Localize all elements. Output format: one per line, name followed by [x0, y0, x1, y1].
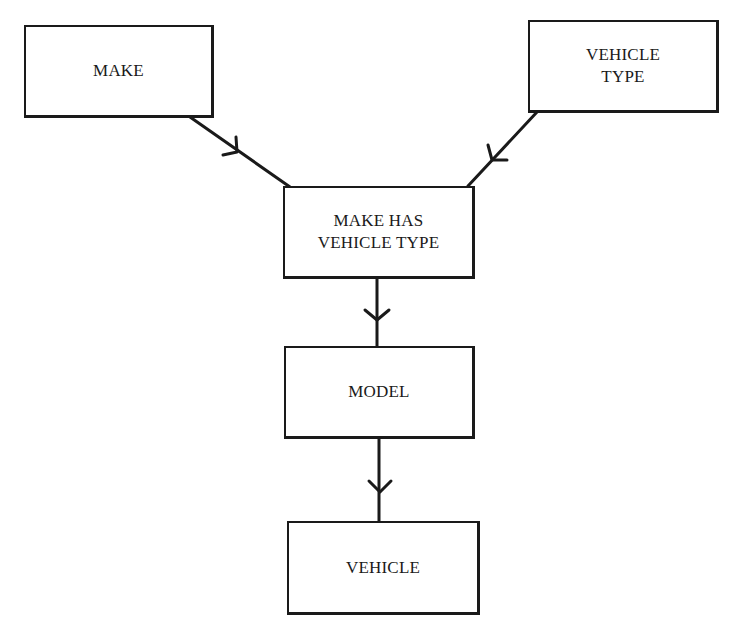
- entity-label-line-1: VEHICLE: [586, 44, 660, 66]
- entity-vehicle: VEHICLE: [287, 521, 480, 615]
- entity-make-has-vehicle-type: MAKE HAS VEHICLE TYPE: [283, 186, 475, 279]
- entity-label: MAKE: [93, 60, 144, 82]
- entity-make: MAKE: [24, 25, 214, 118]
- entity-vehicle-type: VEHICLE TYPE: [528, 20, 719, 113]
- entity-label-line-2: VEHICLE TYPE: [318, 232, 440, 254]
- entity-label-line-1: MAKE HAS: [334, 210, 424, 232]
- entity-label-line-2: TYPE: [601, 66, 644, 88]
- entity-model: MODEL: [284, 346, 475, 439]
- entity-label: VEHICLE: [346, 557, 420, 579]
- connector-make-to-make-has-vehicle-type: [190, 117, 290, 187]
- connector-vehicle-type-to-make-has-vehicle-type: [468, 112, 537, 186]
- entity-label: MODEL: [348, 381, 409, 403]
